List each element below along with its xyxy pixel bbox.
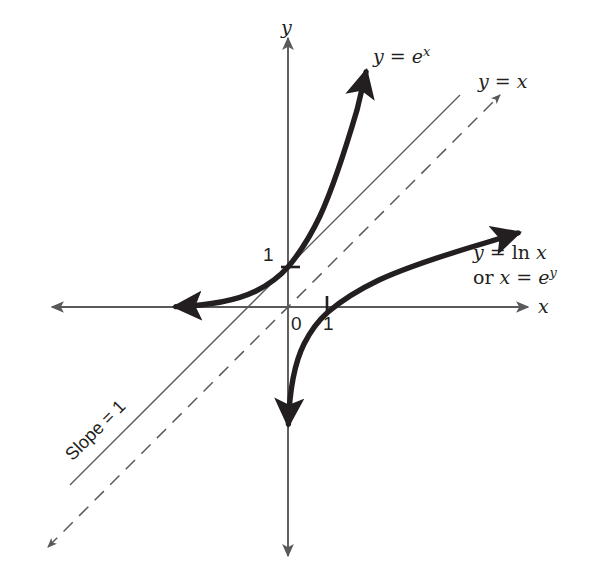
x-axis-label: x (538, 295, 549, 319)
log-curve-label-or: or (473, 266, 500, 288)
exponential-curve (176, 72, 366, 307)
log-curve-label-arg: x (530, 241, 547, 263)
exp-curve-label-base: y = e (373, 45, 423, 67)
log-curve-label-exponent: y (550, 265, 557, 280)
y-tick-label-1: 1 (263, 244, 274, 266)
origin-label: 0 (291, 313, 302, 335)
log-curve-label-prefix: y = (473, 241, 512, 263)
log-curve-label-line1: y = ln x (473, 241, 557, 265)
slope-one-line (70, 95, 460, 485)
log-curve-label-block: y = ln x or x = ey (473, 241, 557, 290)
exp-curve-label-exponent: x (423, 44, 430, 59)
identity-line-dashed (48, 95, 500, 547)
log-curve-label-fn: ln (512, 241, 530, 263)
x-tick-label-1: 1 (323, 313, 334, 335)
exp-curve-label: y = ex (373, 44, 430, 69)
log-curve-label-base: x = e (500, 266, 550, 288)
y-axis-label: y (281, 16, 292, 40)
identity-line-label: y = x (478, 70, 527, 94)
math-figure: y x 0 1 1 y = ex y = x y = ln x or x = e… (0, 0, 596, 586)
log-curve-label-line2: or x = ey (473, 265, 557, 290)
